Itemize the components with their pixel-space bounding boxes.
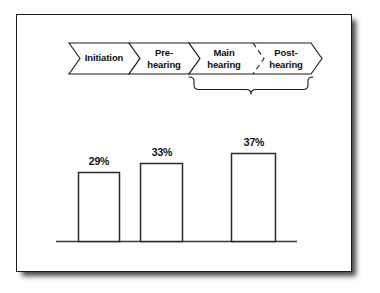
figure-card: Initiation Pre- hearing Main hearing Pos… xyxy=(16,14,352,272)
bar-37[interactable] xyxy=(232,154,276,242)
chevron-segment-main-and-post-hearing[interactable] xyxy=(189,43,322,74)
chevron-segment-initiation[interactable] xyxy=(69,43,140,74)
bar-chart xyxy=(56,154,297,242)
chevron-segment-pre-hearing[interactable] xyxy=(129,43,200,74)
bar-33[interactable] xyxy=(141,164,183,242)
process-chevron-band xyxy=(69,43,322,94)
scope-brace xyxy=(189,77,313,94)
bar-29[interactable] xyxy=(79,173,120,242)
figure-canvas xyxy=(17,15,353,273)
